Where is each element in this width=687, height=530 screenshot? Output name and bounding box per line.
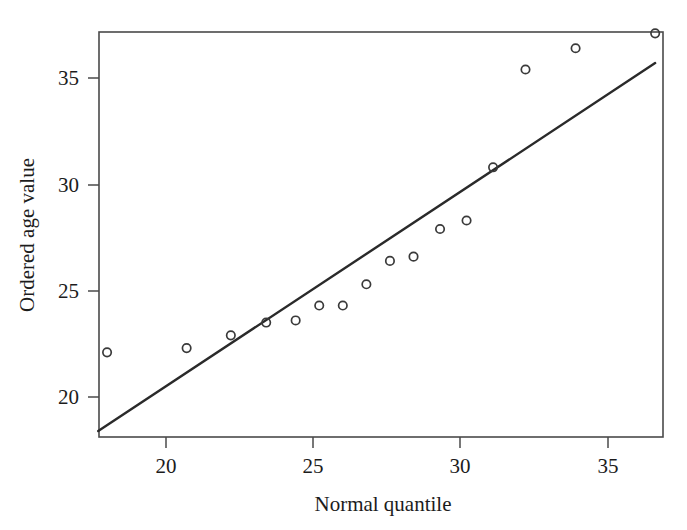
data-point <box>291 316 299 324</box>
data-points-group <box>103 29 659 356</box>
data-point <box>571 44 579 52</box>
y-axis-tick-labels: 20 25 30 35 <box>58 66 79 409</box>
x-axis-tick-labels: 20 25 30 35 <box>156 454 619 478</box>
data-point <box>103 348 111 356</box>
y-tick-label-0: 20 <box>58 385 79 409</box>
x-tick-label-2: 30 <box>450 454 471 478</box>
y-tick-label-2: 30 <box>58 173 79 197</box>
x-axis-title: Normal quantile <box>314 492 451 516</box>
reference-line <box>98 63 655 431</box>
data-point <box>339 301 347 309</box>
data-point <box>521 65 529 73</box>
y-axis-ticks <box>88 78 99 397</box>
x-tick-label-1: 25 <box>303 454 324 478</box>
plot-canvas: 20 25 30 35 20 25 30 35 Normal quantile … <box>0 0 687 530</box>
y-tick-label-3: 35 <box>58 66 79 90</box>
data-point <box>227 331 235 339</box>
data-point <box>462 216 470 224</box>
y-tick-label-1: 25 <box>58 279 79 303</box>
reference-line-group <box>98 63 655 431</box>
x-tick-label-3: 35 <box>598 454 619 478</box>
data-point <box>315 301 323 309</box>
x-tick-label-0: 20 <box>156 454 177 478</box>
data-point <box>651 29 659 37</box>
data-point <box>436 225 444 233</box>
y-axis-title: Ordered age value <box>15 158 39 312</box>
data-point <box>182 344 190 352</box>
x-axis-ticks <box>166 437 608 448</box>
data-point <box>409 252 417 260</box>
plot-frame <box>99 32 663 437</box>
data-point <box>362 280 370 288</box>
qq-plot-figure: 20 25 30 35 20 25 30 35 Normal quantile … <box>0 0 687 530</box>
data-point <box>386 257 394 265</box>
